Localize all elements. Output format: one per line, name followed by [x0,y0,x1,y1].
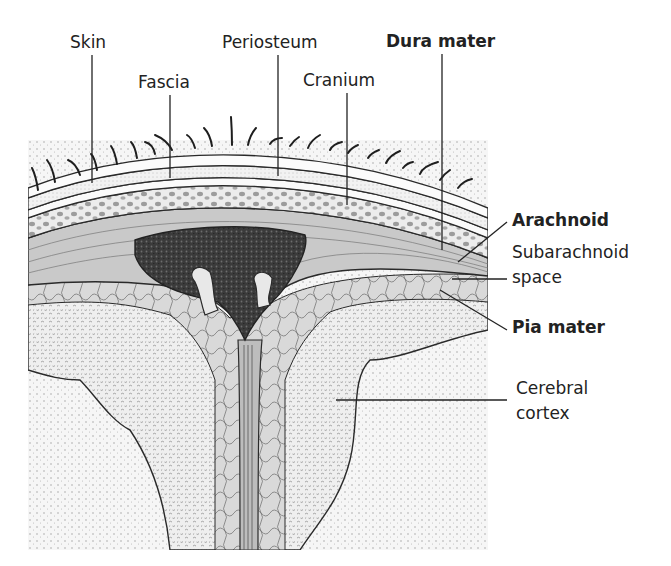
label-pia-mater: Pia mater [512,317,606,337]
label-dura-mater: Dura mater [386,31,496,51]
arachnoid-granulation [254,272,272,308]
label-cerebral-cortex-line2: cortex [516,403,570,423]
meninges-diagram: Skin Fascia Periosteum Cranium Dura mate… [0,0,671,566]
label-cerebral-cortex-line1: Cerebral [516,378,588,398]
label-skin: Skin [70,32,106,52]
label-periosteum: Periosteum [222,32,318,52]
falx-extension [238,340,262,550]
label-arachnoid: Arachnoid [512,210,609,230]
label-subarachnoid-space-line2: space [512,267,562,287]
label-cranium: Cranium [303,70,375,90]
brain-section [28,140,488,550]
label-fascia: Fascia [138,72,190,92]
label-subarachnoid-space-line1: Subarachnoid [512,242,629,262]
